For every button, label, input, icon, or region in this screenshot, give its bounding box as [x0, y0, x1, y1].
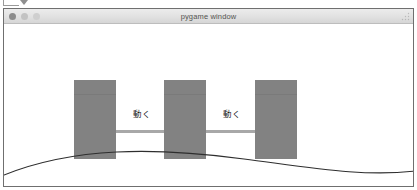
toolbar-fragment-line [3, 5, 19, 6]
hand-drawn-curve [4, 135, 413, 187]
chevron-down-icon[interactable] [20, 0, 28, 5]
sprite-block-2[interactable] [164, 80, 206, 159]
move-label-2: 動く [223, 109, 241, 120]
pygame-window: pygame window 動く 動く [3, 8, 414, 187]
move-label-1: 動く [133, 109, 151, 120]
block-seam [74, 94, 116, 95]
window-title: pygame window [4, 11, 413, 22]
pygame-canvas[interactable]: 動く 動く [4, 24, 413, 187]
arrow-shaft [203, 130, 260, 133]
window-titlebar[interactable]: pygame window [4, 9, 413, 24]
block-seam [255, 94, 297, 95]
sprite-block-1[interactable] [74, 80, 116, 159]
block-seam [164, 94, 206, 95]
arrow-shaft [112, 130, 169, 133]
cropped-toolbar-fragment [3, 0, 29, 7]
sprite-block-3[interactable] [255, 80, 297, 159]
resize-grip-icon[interactable] [401, 12, 410, 21]
